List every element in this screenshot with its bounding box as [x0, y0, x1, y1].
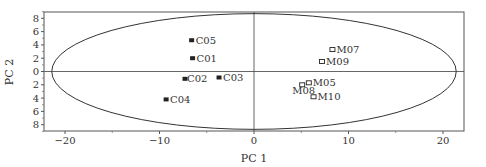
y-tick-label: 6 — [33, 26, 39, 37]
open-square-marker-icon — [320, 60, 325, 64]
y-tick-label: 0 — [33, 66, 39, 77]
data-point-m07: M07 — [330, 44, 359, 55]
data-point-c05: C05 — [189, 35, 216, 46]
x-tick-label: −20 — [54, 135, 75, 146]
point-label: M10 — [318, 91, 341, 102]
filled-square-marker-icon — [217, 75, 222, 79]
chart-canvas: −20−1001020864202468 C05C01C02C03C04M07M… — [0, 0, 486, 167]
data-point-c03: C03 — [217, 72, 244, 83]
open-square-marker-icon — [311, 95, 316, 99]
point-label: C02 — [187, 73, 207, 84]
open-square-marker-icon — [330, 48, 335, 52]
filled-square-marker-icon — [189, 38, 194, 42]
y-tick-label: 4 — [33, 93, 39, 104]
data-point-m08: M08 — [292, 83, 315, 96]
y-tick-label: 6 — [33, 106, 39, 117]
point-label: C04 — [170, 94, 190, 105]
point-label: M09 — [326, 56, 349, 67]
y-tick-label: 2 — [33, 79, 39, 90]
filled-square-marker-icon — [190, 56, 195, 60]
y-axis-label: PC 2 — [3, 59, 16, 85]
data-point-m10: M10 — [311, 91, 340, 102]
point-label: C03 — [223, 72, 243, 83]
data-point-c01: C01 — [190, 53, 217, 64]
x-tick-label: 0 — [251, 135, 257, 146]
point-label: M07 — [336, 44, 359, 55]
data-point-c04: C04 — [164, 94, 191, 105]
y-tick-label: 8 — [33, 13, 39, 24]
y-tick-label: 8 — [33, 119, 39, 130]
x-tick-label: 10 — [342, 135, 355, 146]
point-label: C01 — [197, 53, 217, 64]
data-point-m09: M09 — [320, 56, 349, 67]
point-label: M08 — [292, 85, 315, 96]
y-tick-label: 2 — [33, 53, 39, 64]
x-tick-label: −10 — [149, 135, 170, 146]
y-tick-label: 4 — [33, 39, 39, 50]
pca-scatter-chart: −20−1001020864202468 C05C01C02C03C04M07M… — [0, 0, 486, 167]
x-axis-label: PC 1 — [241, 152, 267, 165]
point-label: C05 — [196, 35, 216, 46]
filled-square-marker-icon — [164, 97, 169, 101]
point-label: M05 — [313, 77, 336, 88]
data-point-c02: C02 — [183, 73, 208, 84]
x-tick-label: 20 — [437, 135, 450, 146]
